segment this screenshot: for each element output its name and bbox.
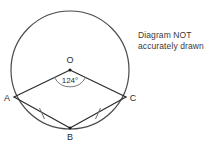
circle-geometry-figure: O A C B 124° [0, 0, 224, 144]
label-vertex-b: B [67, 132, 73, 142]
diagram-note-line-2: accurately drawn [138, 41, 222, 52]
point-o-marker [68, 68, 71, 71]
segment-oc [70, 70, 126, 97]
label-vertex-a: A [4, 93, 10, 103]
label-vertex-c: C [130, 93, 137, 103]
point-b-marker [68, 126, 71, 129]
diagram-canvas: O A C B 124° Diagram NOT accurately draw… [0, 0, 224, 144]
label-angle-value: 124° [62, 76, 79, 85]
diagram-note-line-1: Diagram NOT [138, 30, 222, 41]
diagram-note: Diagram NOT accurately drawn [138, 30, 222, 52]
label-center-o: O [66, 55, 73, 65]
